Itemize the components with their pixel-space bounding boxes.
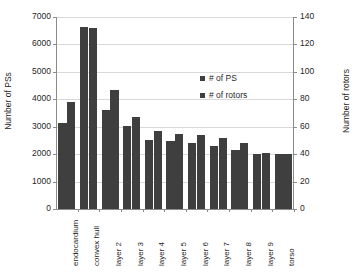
- bar-pair: [121, 17, 143, 209]
- x-label-layer-3: layer 3: [136, 242, 145, 266]
- legend-swatch-icon: [200, 76, 205, 81]
- y-tickmark-right: [294, 127, 297, 128]
- bar-ps-layer-8: [231, 150, 239, 209]
- bar-chart: Number of PSs Number of rotors 010002000…: [0, 0, 354, 273]
- y-tick-left-1000: 1000: [17, 177, 51, 186]
- x-tickmark: [99, 209, 100, 212]
- bar-ps-torso: [275, 154, 283, 209]
- y-tick-right-120: 120: [300, 39, 334, 48]
- bar-rotors-torso: [283, 154, 291, 209]
- y-axis-right-title: Number of rotors: [341, 65, 351, 137]
- legend-swatch-icon: [200, 93, 205, 98]
- y-tickmark-right: [294, 72, 297, 73]
- bar-pair: [207, 17, 229, 209]
- x-label-layer-4: layer 4: [157, 242, 166, 266]
- x-label-layer-2: layer 2: [114, 242, 123, 266]
- bar-pair: [56, 17, 78, 209]
- bar-pair: [164, 17, 186, 209]
- bar-pair: [99, 17, 121, 209]
- bar-pair: [186, 17, 208, 209]
- x-tickmark: [294, 209, 295, 212]
- y-tickmark-right: [294, 17, 297, 18]
- bar-ps-layer-7: [210, 146, 218, 209]
- x-label-torso: torso: [287, 248, 296, 266]
- bar-rotors-layer-8: [240, 143, 248, 209]
- x-label-layer-5: layer 5: [179, 242, 188, 266]
- bar-pair: [143, 17, 165, 209]
- bar-rotors-convex-hull: [89, 28, 97, 209]
- bar-rotors-layer-5: [175, 134, 183, 209]
- legend-item-ps[interactable]: # of PS: [200, 73, 247, 83]
- y-tick-right-20: 20: [300, 177, 334, 186]
- y-tick-left-7000: 7000: [17, 12, 51, 21]
- bar-ps-layer-9: [253, 154, 261, 209]
- x-label-layer-7: layer 7: [222, 242, 231, 266]
- legend-label: # of rotors: [209, 90, 247, 100]
- bar-rotors-endocardium: [67, 102, 75, 209]
- bar-ps-layer-2: [102, 110, 110, 209]
- y-tick-left-4000: 4000: [17, 94, 51, 103]
- x-tickmark: [186, 209, 187, 212]
- bar-ps-convex-hull: [80, 27, 88, 209]
- x-tickmark: [164, 209, 165, 212]
- y-tick-right-40: 40: [300, 149, 334, 158]
- bar-ps-layer-6: [188, 143, 196, 209]
- bar-pair: [272, 17, 294, 209]
- x-tickmark: [78, 209, 79, 212]
- bar-ps-layer-4: [145, 140, 153, 209]
- x-tickmark: [207, 209, 208, 212]
- x-tickmark: [251, 209, 252, 212]
- bar-ps-layer-3: [123, 126, 131, 209]
- y-tick-left-6000: 6000: [17, 39, 51, 48]
- legend-item-rotors[interactable]: # of rotors: [200, 90, 247, 100]
- y-tick-right-80: 80: [300, 94, 334, 103]
- x-axis-line: [56, 209, 294, 210]
- x-tickmark: [229, 209, 230, 212]
- x-label-endocardium: endocardium: [71, 220, 80, 266]
- bar-rotors-layer-4: [154, 131, 162, 209]
- y-tick-left-0: 0: [17, 204, 51, 213]
- y-tickmark-right: [294, 44, 297, 45]
- y-tickmark-right: [294, 154, 297, 155]
- bar-rotors-layer-2: [110, 90, 118, 209]
- legend-label: # of PS: [209, 73, 237, 83]
- bar-ps-layer-5: [166, 141, 174, 209]
- y-tick-left-5000: 5000: [17, 67, 51, 76]
- bar-rotors-layer-3: [132, 117, 140, 209]
- bar-ps-endocardium: [58, 123, 66, 209]
- x-label-convex-hull: convex hull: [92, 226, 101, 266]
- y-axis-left-title: Number of PSs: [3, 65, 13, 137]
- bar-pair: [251, 17, 273, 209]
- x-tickmark: [272, 209, 273, 212]
- x-tickmark: [121, 209, 122, 212]
- y-tick-left-2000: 2000: [17, 149, 51, 158]
- bar-rotors-layer-7: [219, 138, 227, 209]
- chart-legend: # of PS# of rotors: [200, 73, 247, 107]
- bar-rotors-layer-6: [197, 135, 205, 209]
- plot-area: [56, 17, 294, 209]
- y-tick-left-3000: 3000: [17, 122, 51, 131]
- x-tickmark: [143, 209, 144, 212]
- y-tickmark-right: [294, 99, 297, 100]
- y-tickmark-right: [294, 182, 297, 183]
- x-label-layer-6: layer 6: [201, 242, 210, 266]
- x-label-layer-8: layer 8: [244, 242, 253, 266]
- bar-rotors-layer-9: [262, 153, 270, 209]
- y-tick-right-100: 100: [300, 67, 334, 76]
- y-tick-right-60: 60: [300, 122, 334, 131]
- y-tick-right-0: 0: [300, 204, 334, 213]
- x-label-layer-9: layer 9: [266, 242, 275, 266]
- y-tick-right-140: 140: [300, 12, 334, 21]
- bar-pair: [229, 17, 251, 209]
- bar-pair: [78, 17, 100, 209]
